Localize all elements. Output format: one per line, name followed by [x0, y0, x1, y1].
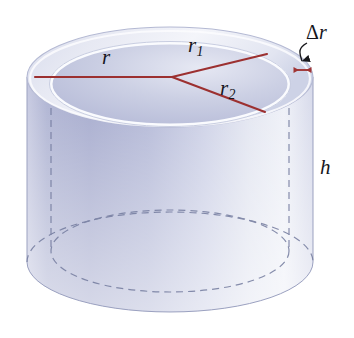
label-inner-radius-base: r — [188, 33, 196, 57]
label-delta-radius-base: r — [319, 21, 327, 43]
label-inner-radius-subscript: 1 — [196, 44, 203, 59]
label-outer-radius-base: r — [220, 76, 228, 100]
label-inner-radius: r1 — [188, 35, 203, 59]
cylinder-drawing — [0, 0, 354, 338]
label-delta-symbol: Δ — [306, 21, 319, 43]
cylindrical-shell-figure: r r1 r2 h Δr — [0, 0, 354, 338]
inner-hole — [50, 42, 291, 127]
label-average-radius: r — [102, 47, 110, 68]
label-delta-r: Δr — [306, 22, 327, 42]
label-outer-radius-subscript: 2 — [228, 87, 235, 102]
label-height: h — [320, 157, 331, 178]
label-outer-radius: r2 — [220, 78, 235, 102]
